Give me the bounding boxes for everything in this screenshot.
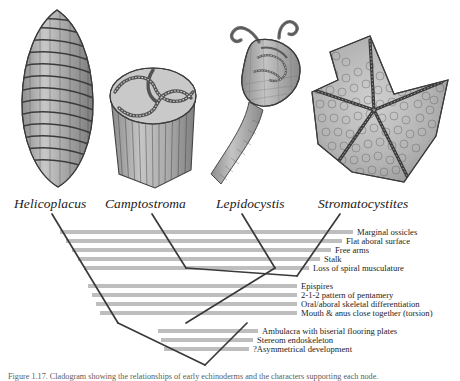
- node-root-left: [118, 323, 205, 365]
- camptostroma-branch: [152, 214, 186, 268]
- lepidocystis-stalked-fossil: [205, 14, 309, 192]
- lepidocystis-branch: [242, 214, 275, 268]
- node-root-right: [205, 323, 247, 365]
- cladogram-branches: [0, 196, 460, 381]
- stromatocystites-star-fossil: [308, 32, 454, 192]
- camptostroma-drum-fossil: [105, 62, 201, 190]
- node-crown-left: [186, 268, 297, 276]
- fossil-illustration-row: [0, 0, 460, 196]
- cladogram: Marginal ossiclesFlat aboral surfaceFree…: [0, 196, 460, 381]
- node-inner-left: [186, 268, 275, 323]
- helicoplacus-spindle-fossil: [14, 8, 100, 190]
- figure-echinoderm-cladogram: Helicoplacus Camptostroma Lepidocystis S…: [0, 0, 460, 381]
- stromatocystites-branch: [297, 214, 340, 276]
- figure-caption: Figure 1.17. Cladogram showing the relat…: [8, 371, 456, 381]
- helicoplacus-branch: [52, 214, 118, 323]
